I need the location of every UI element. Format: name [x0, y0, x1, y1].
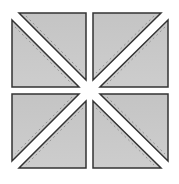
quadrant-top-left	[12, 13, 86, 87]
quadrant-bottom-right	[93, 94, 168, 168]
quadrant-bottom-left	[12, 94, 86, 168]
quadrant-top-right	[93, 13, 168, 87]
quilt-block-diagram	[0, 0, 179, 184]
